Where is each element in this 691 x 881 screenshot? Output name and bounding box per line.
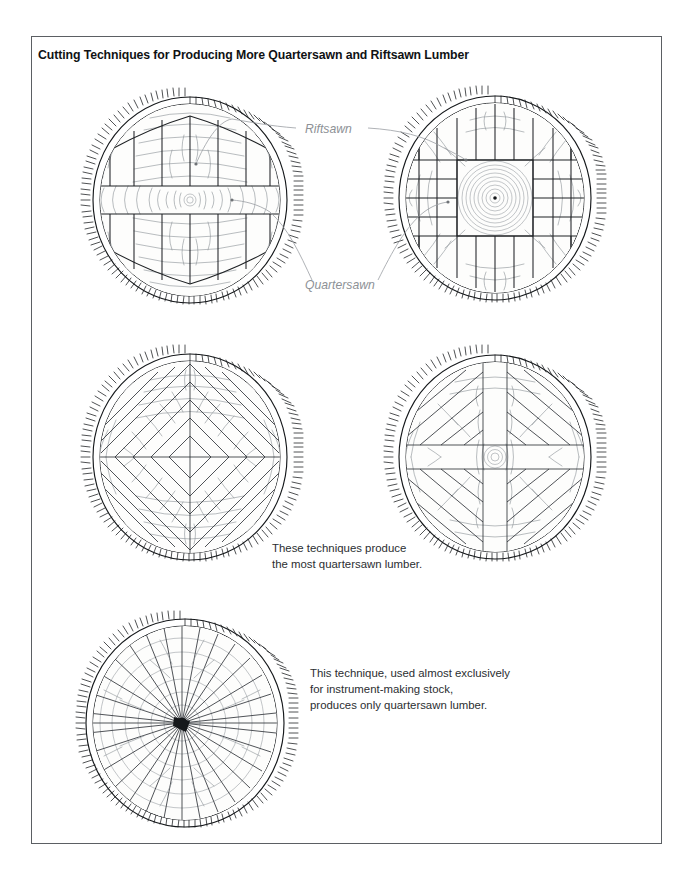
figure-border (31, 36, 662, 844)
figure-root: Cutting Techniques for Producing More Qu… (0, 0, 691, 881)
figure-title: Cutting Techniques for Producing More Qu… (38, 48, 469, 62)
